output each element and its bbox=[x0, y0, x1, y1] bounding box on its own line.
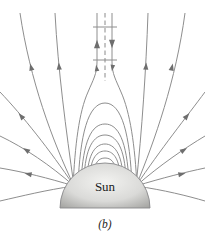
arrow-icon bbox=[178, 171, 186, 177]
arrow-icon bbox=[22, 146, 31, 154]
open-field-lines-left bbox=[0, 13, 74, 201]
arrow-icon bbox=[56, 62, 62, 70]
figure-panel: Sun (b) bbox=[0, 0, 205, 241]
arrow-up-icon bbox=[94, 40, 100, 48]
field-line bbox=[55, 13, 74, 186]
arrow-icon bbox=[24, 171, 32, 177]
open-field-lines-right bbox=[136, 13, 205, 201]
field-line bbox=[73, 13, 97, 187]
field-line bbox=[0, 92, 74, 186]
solar-magnetic-field-diagram: Sun (b) bbox=[0, 0, 205, 241]
figure-caption: (b) bbox=[98, 218, 112, 231]
field-line bbox=[136, 92, 205, 186]
field-line bbox=[20, 13, 74, 186]
arrow-down-icon bbox=[109, 40, 115, 48]
arrow-icon bbox=[143, 62, 149, 70]
sun-label: Sun bbox=[95, 179, 116, 194]
arrow-icon bbox=[28, 63, 35, 71]
